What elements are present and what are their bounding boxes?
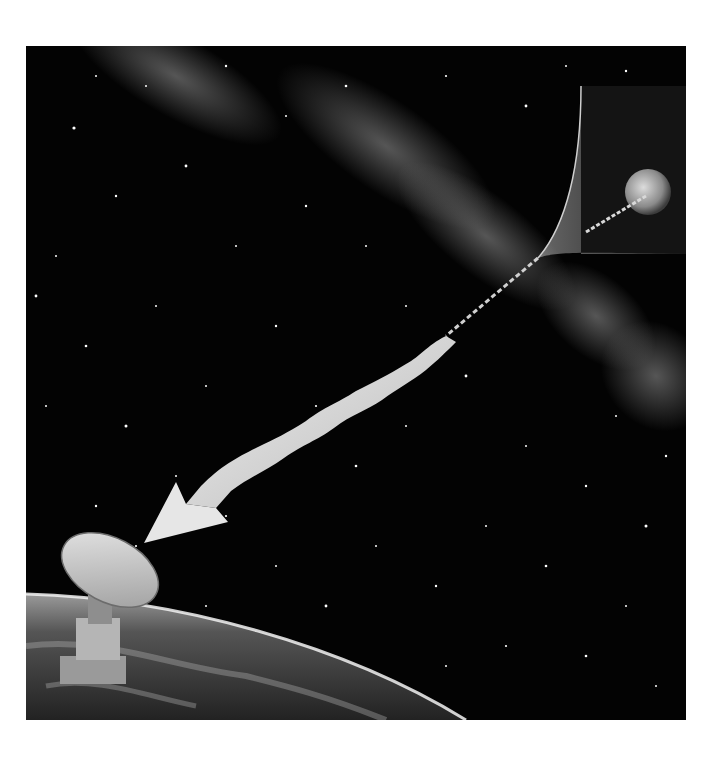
space-illustration [26,46,686,720]
distant-planet-icon [625,169,671,215]
illustration-canvas [26,46,686,720]
signal-ribbon-arrow [144,258,538,543]
distant-planet-panel [538,86,686,258]
